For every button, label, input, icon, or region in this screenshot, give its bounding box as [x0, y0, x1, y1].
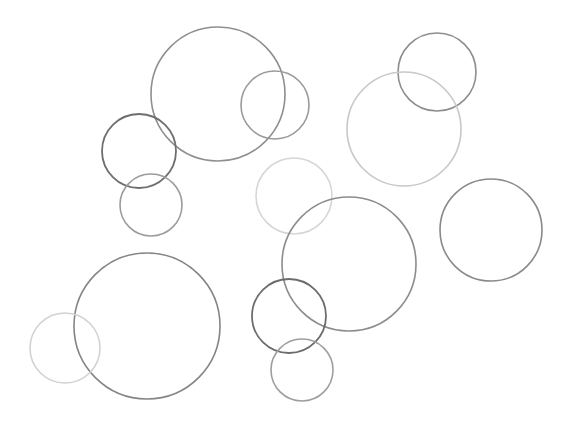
circle-outline: [440, 179, 542, 281]
circle-outline: [282, 197, 416, 331]
circle-outline: [256, 158, 332, 234]
circle-outline: [271, 339, 333, 401]
circle-outline: [151, 27, 285, 161]
circle-outline: [347, 72, 461, 186]
circle-outline: [120, 174, 182, 236]
circles-canvas: [0, 0, 576, 421]
circle-outline: [30, 313, 100, 383]
circle-outline: [74, 253, 220, 399]
